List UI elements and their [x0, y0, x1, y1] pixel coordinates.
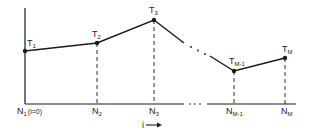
profile-ellipsis — [190, 46, 206, 55]
label-t3: T3 — [149, 5, 159, 16]
label-nm: NM — [281, 106, 293, 117]
profile-line-end — [210, 56, 285, 71]
label-n1: N1(i=0) — [17, 106, 42, 117]
x-axis-ellipsis — [189, 103, 201, 105]
label-t1: T1 — [27, 38, 37, 49]
point-tm — [283, 56, 287, 60]
label-tm: TM — [282, 44, 293, 55]
label-n2: N2 — [92, 106, 103, 117]
axis-index-label: i — [142, 120, 144, 130]
arrow-head-icon — [157, 123, 162, 128]
point-t2 — [95, 41, 99, 45]
point-t3 — [152, 18, 156, 22]
stage-dashed-lines — [97, 20, 285, 104]
point-tm-1 — [232, 69, 236, 73]
label-tm-1: TM-1 — [229, 56, 245, 67]
label-n3: N3 — [149, 106, 160, 117]
point-t1 — [23, 49, 27, 53]
profile-line-start — [25, 20, 184, 51]
label-nm-1: NM-1 — [226, 106, 243, 117]
label-t2: T2 — [92, 29, 102, 40]
temperature-profile-diagram: T1 T2 T3 TM-1 TM N1(i=0) N2 N3 NM-1 NM i — [0, 0, 318, 134]
profile-points — [23, 18, 287, 73]
